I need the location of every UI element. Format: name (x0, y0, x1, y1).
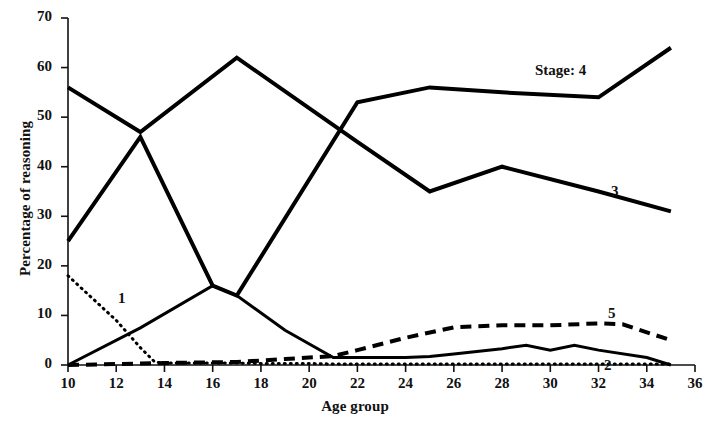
y-tick-label: 70 (22, 8, 52, 25)
x-tick-label: 22 (342, 375, 372, 392)
series-label-3: 3 (611, 183, 619, 200)
x-tick-label: 26 (439, 375, 469, 392)
series-label-2: 2 (604, 357, 612, 374)
x-tick-label: 24 (391, 375, 421, 392)
y-tick-label: 60 (22, 58, 52, 75)
x-tick-label: 10 (53, 375, 83, 392)
y-tick-label: 40 (22, 157, 52, 174)
x-tick-label: 28 (487, 375, 517, 392)
y-tick-label: 50 (22, 107, 52, 124)
series-line-4 (68, 48, 671, 296)
x-tick-label: 20 (294, 375, 324, 392)
x-axis-title: Age group (0, 398, 710, 415)
series-label-5: 5 (608, 305, 616, 322)
x-tick-label: 30 (535, 375, 565, 392)
chart-container: Percentage of reasoning Age group 010203… (0, 0, 710, 433)
series-line-3 (68, 58, 671, 212)
y-tick-label: 10 (22, 305, 52, 322)
y-tick-label: 20 (22, 256, 52, 273)
y-tick-label: 30 (22, 206, 52, 223)
chart-series (68, 48, 671, 365)
x-tick-label: 14 (149, 375, 179, 392)
series-label-4: Stage: 4 (535, 62, 586, 79)
x-tick-label: 12 (101, 375, 131, 392)
series-line-2 (68, 286, 671, 365)
y-tick-label: 0 (22, 355, 52, 372)
x-tick-label: 34 (632, 375, 662, 392)
x-tick-label: 18 (246, 375, 276, 392)
series-label-1: 1 (118, 290, 126, 307)
x-tick-label: 32 (584, 375, 614, 392)
x-tick-label: 16 (198, 375, 228, 392)
x-tick-label: 36 (680, 375, 710, 392)
series-line-1 (68, 276, 671, 364)
